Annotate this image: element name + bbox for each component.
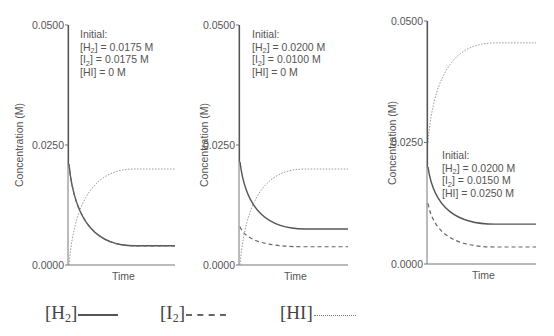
legend-hi-label: [HI] xyxy=(280,302,313,324)
series-h2-line xyxy=(240,162,348,229)
dotted-line-swatch-icon xyxy=(314,315,356,316)
svg-text:Initial:: Initial: xyxy=(80,28,107,40)
legend-hi: [HI] xyxy=(280,302,356,324)
series-hi-line xyxy=(240,169,348,265)
legend-i2: [I2] xyxy=(160,302,226,326)
series-hi-line xyxy=(69,169,175,265)
svg-text:[HI] = 0.0250 M: [HI] = 0.0250 M xyxy=(442,187,514,199)
solid-line-swatch-icon xyxy=(78,314,118,316)
initial-conditions-annotation: Initial:[H2] = 0.0200 M[I2] = 0.0100 M[H… xyxy=(252,28,325,78)
chart-panel-2: 0.00000.02500.0500Concentration (M)TimeI… xyxy=(198,19,348,283)
y-tick-label: 0.0500 xyxy=(391,15,423,27)
y-axis-label: Concentration (M) xyxy=(13,103,25,187)
x-axis-label: Time xyxy=(472,269,495,281)
legend-h2-label: [H2] xyxy=(45,302,77,326)
series-i2-line xyxy=(428,203,536,247)
y-axis-label: Concentration (M) xyxy=(386,101,398,185)
x-axis-label: Time xyxy=(284,270,307,282)
dashed-line-swatch-icon xyxy=(186,314,226,316)
svg-text:[HI] = 0 M: [HI] = 0 M xyxy=(80,66,126,78)
series-hi-line xyxy=(428,43,536,143)
y-tick-label: 0.0500 xyxy=(203,19,235,31)
series-h2-line xyxy=(69,164,175,246)
y-tick-label: 0.0000 xyxy=(203,259,235,271)
chart-panel-3: 0.00000.02500.0500Concentration (M)TimeI… xyxy=(386,15,536,282)
svg-text:[HI] = 0 M: [HI] = 0 M xyxy=(252,66,298,78)
chart-figure: 0.00000.02500.0500Concentration (M)TimeI… xyxy=(0,0,554,336)
initial-conditions-annotation: Initial:[H2] = 0.0200 M[I2] = 0.0150 M[H… xyxy=(442,149,515,199)
y-axis-label: Concentration (M) xyxy=(198,103,210,187)
initial-conditions-annotation: Initial:[H2] = 0.0175 M[I2] = 0.0175 M[H… xyxy=(80,28,153,78)
y-tick-label: 0.0500 xyxy=(32,19,64,31)
y-tick-label: 0.0250 xyxy=(32,139,64,151)
svg-text:Initial:: Initial: xyxy=(442,149,469,161)
y-tick-label: 0.0000 xyxy=(32,259,64,271)
legend-h2: [H2] xyxy=(45,302,118,326)
legend-i2-label: [I2] xyxy=(160,302,185,326)
x-axis-label: Time xyxy=(112,270,135,282)
svg-text:Initial:: Initial: xyxy=(252,28,279,40)
series-i2-line xyxy=(69,164,175,246)
y-tick-label: 0.0000 xyxy=(391,258,423,270)
chart-panel-1: 0.00000.02500.0500Concentration (M)TimeI… xyxy=(13,19,175,283)
